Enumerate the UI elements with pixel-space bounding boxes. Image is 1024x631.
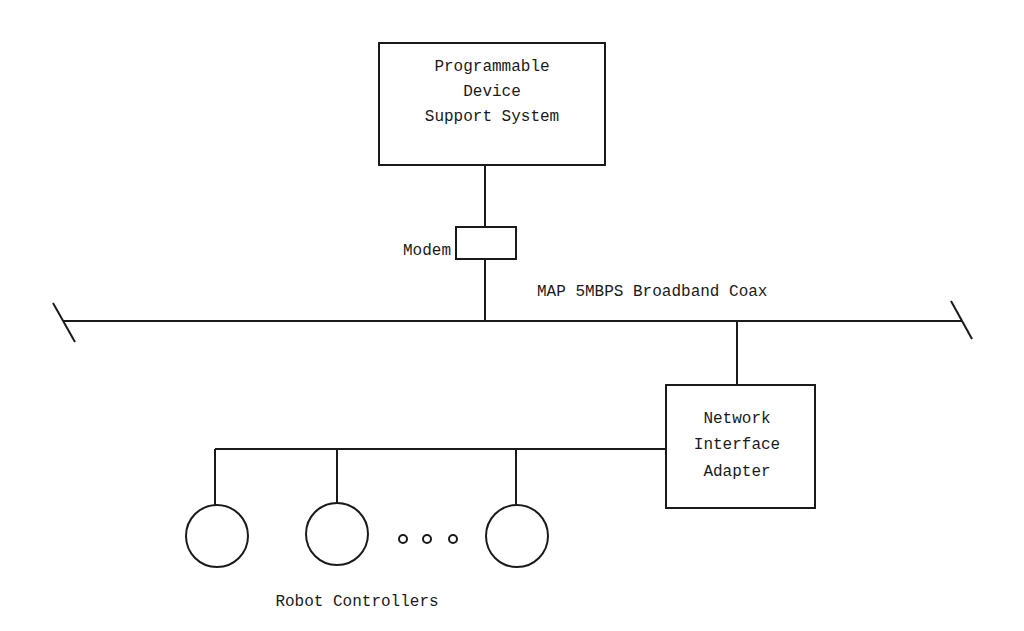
bus-left-terminator xyxy=(53,303,75,342)
support-system-label-line3: Support System xyxy=(425,108,559,126)
adapter-node: Network Interface Adapter xyxy=(666,385,815,508)
modem-box xyxy=(456,227,516,259)
controller-branch: Robot Controllers xyxy=(186,449,666,611)
bus-label: MAP 5MBPS Broadband Coax xyxy=(537,283,767,301)
robot-controller-1 xyxy=(186,505,248,567)
modem-label: Modem xyxy=(403,242,451,260)
ellipsis-dot-3 xyxy=(449,535,457,543)
support-system-node: Programmable Device Support System xyxy=(379,43,605,165)
robot-controller-3 xyxy=(486,505,548,567)
adapter-label-line1: Network xyxy=(703,410,770,428)
broadband-bus: MAP 5MBPS Broadband Coax xyxy=(53,283,972,342)
ellipsis-dot-1 xyxy=(399,535,407,543)
ellipsis-dot-2 xyxy=(423,535,431,543)
support-system-label-line2: Device xyxy=(463,83,521,101)
adapter-label-line3: Adapter xyxy=(703,463,770,481)
network-diagram: Programmable Device Support System Modem… xyxy=(0,0,1024,631)
modem-node: Modem xyxy=(403,227,516,260)
controllers-label: Robot Controllers xyxy=(275,593,438,611)
adapter-label-line2: Interface xyxy=(694,436,780,454)
support-system-label-line1: Programmable xyxy=(434,58,549,76)
robot-controller-2 xyxy=(306,503,368,565)
